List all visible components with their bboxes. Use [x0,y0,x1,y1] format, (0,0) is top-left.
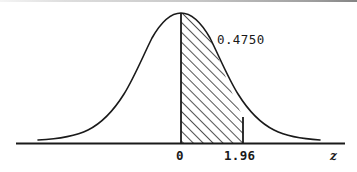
distribution-plot [0,0,357,172]
tick-label-critical-value: 1.96 [224,148,255,163]
tick-label-mean: 0 [176,148,184,163]
area-hatch-fill [175,8,251,146]
shaded-area-region [175,8,251,146]
x-axis-label: z [330,149,337,163]
area-value-label: 0.4750 [217,32,265,47]
bell-curve [38,13,320,140]
normal-distribution-figure: 0.4750 0 1.96 z [0,0,357,172]
